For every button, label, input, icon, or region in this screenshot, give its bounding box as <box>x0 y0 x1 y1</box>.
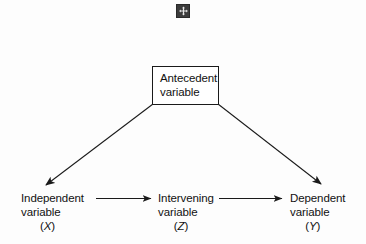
node-antecedent-line-1: Antecedent <box>160 71 212 85</box>
node-dependent-variable[interactable]: Dependent variable (Y) <box>290 191 345 233</box>
node-independent-line-2: variable <box>21 205 84 219</box>
diagram-canvas: Antecedent variable Independent variable… <box>0 0 366 244</box>
connector-antecedent-to-independent <box>46 104 153 185</box>
node-independent-variable[interactable]: Independent variable (X) <box>21 191 84 233</box>
node-intervening-code: (Z) <box>158 219 214 233</box>
node-independent-code: (X) <box>21 219 84 233</box>
node-independent-line-1: Independent <box>21 191 84 205</box>
node-antecedent-variable[interactable]: Antecedent variable <box>152 66 219 105</box>
node-intervening-line-1: Intervening <box>158 191 214 205</box>
node-antecedent-line-2: variable <box>160 85 212 99</box>
node-dependent-code: (Y) <box>290 219 345 233</box>
node-dependent-line-1: Dependent <box>290 191 345 205</box>
move-handle-icon[interactable] <box>176 4 190 18</box>
node-intervening-variable[interactable]: Intervening variable (Z) <box>158 191 214 233</box>
node-dependent-line-2: variable <box>290 205 345 219</box>
connector-antecedent-to-dependent <box>218 104 321 184</box>
node-intervening-line-2: variable <box>158 205 214 219</box>
